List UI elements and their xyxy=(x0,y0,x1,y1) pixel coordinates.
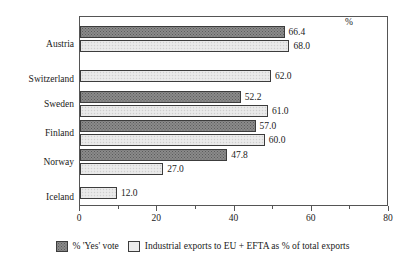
bar-label-iceland-exports: 12.0 xyxy=(121,187,138,199)
bar-group-sweden: 52.2 61.0 xyxy=(80,91,388,119)
bar-label-sweden-yes-vote: 52.2 xyxy=(245,91,262,103)
x-tick-20 xyxy=(156,206,157,211)
bar-switzerland-exports[interactable] xyxy=(80,70,271,82)
bar-group-iceland: 12.0 xyxy=(80,187,388,201)
bar-finland-exports[interactable] xyxy=(80,134,265,146)
bar-label-norway-exports: 27.0 xyxy=(167,163,184,175)
bar-norway-exports[interactable] xyxy=(80,163,163,175)
bar-label-finland-exports: 60.0 xyxy=(269,134,286,146)
legend-label-exports: Industrial exports to EU + EFTA as % of … xyxy=(145,240,350,252)
x-tick-label-40: 40 xyxy=(229,212,239,224)
bar-austria-yes-vote[interactable] xyxy=(80,26,285,38)
x-tick-label-60: 60 xyxy=(306,212,316,224)
bar-norway-yes-vote[interactable] xyxy=(80,149,227,161)
x-tick-label-80: 80 xyxy=(383,212,393,224)
bar-label-sweden-exports: 61.0 xyxy=(272,105,289,117)
category-label-austria: Austria xyxy=(0,39,74,50)
x-tick-0 xyxy=(79,206,80,211)
bar-group-austria: 66.4 68.0 xyxy=(80,17,388,49)
category-label-sweden: Sweden xyxy=(0,99,74,110)
x-tick-label-20: 20 xyxy=(152,212,162,224)
x-tick-80 xyxy=(388,206,389,211)
chart-legend: % 'Yes' vote Industrial exports to EU + … xyxy=(0,236,405,256)
percent-annotation: % xyxy=(345,17,353,28)
x-tick-70 xyxy=(349,206,350,209)
x-tick-50 xyxy=(272,206,273,209)
x-tick-60 xyxy=(311,206,312,211)
category-axis-labels: Austria Switzerland Sweden Finland Norwa… xyxy=(0,17,74,205)
bar-finland-yes-vote[interactable] xyxy=(80,120,256,132)
legend-swatch-exports-icon xyxy=(128,241,140,252)
bar-label-norway-yes-vote: 47.8 xyxy=(231,149,248,161)
x-tick-label-0: 0 xyxy=(77,212,82,224)
bar-sweden-yes-vote[interactable] xyxy=(80,91,241,103)
category-label-switzerland: Switzerland xyxy=(0,74,74,85)
bar-group-switzerland: 62.0 xyxy=(80,70,388,84)
x-tick-40 xyxy=(234,206,235,211)
bar-group-finland: 57.0 60.0 xyxy=(80,120,388,148)
legend-swatch-yes-vote-icon xyxy=(56,241,68,252)
bar-label-finland-yes-vote: 57.0 xyxy=(260,120,277,132)
bar-label-switzerland-exports: 62.0 xyxy=(275,70,292,82)
bar-group-norway: 47.8 27.0 xyxy=(80,149,388,177)
bar-label-austria-yes-vote: 66.4 xyxy=(289,26,306,38)
legend-item-yes-vote[interactable]: % 'Yes' vote xyxy=(56,240,119,252)
bar-chart: Austria Switzerland Sweden Finland Norwa… xyxy=(0,0,405,267)
bar-iceland-exports[interactable] xyxy=(80,187,117,199)
x-axis: 0 20 40 60 80 xyxy=(79,206,389,230)
category-label-iceland: Iceland xyxy=(0,192,74,203)
category-label-norway: Norway xyxy=(0,157,74,168)
category-label-finland: Finland xyxy=(0,128,74,139)
bar-austria-exports[interactable] xyxy=(80,40,289,52)
x-tick-30 xyxy=(195,206,196,209)
legend-item-exports[interactable]: Industrial exports to EU + EFTA as % of … xyxy=(128,240,350,252)
bar-sweden-exports[interactable] xyxy=(80,105,268,117)
bars-layer: 66.4 68.0 62.0 52.2 61.0 57.0 60.0 47.8 xyxy=(80,17,388,205)
legend-label-yes-vote: % 'Yes' vote xyxy=(73,240,119,252)
bar-label-austria-exports: 68.0 xyxy=(293,40,310,52)
x-tick-10 xyxy=(118,206,119,209)
